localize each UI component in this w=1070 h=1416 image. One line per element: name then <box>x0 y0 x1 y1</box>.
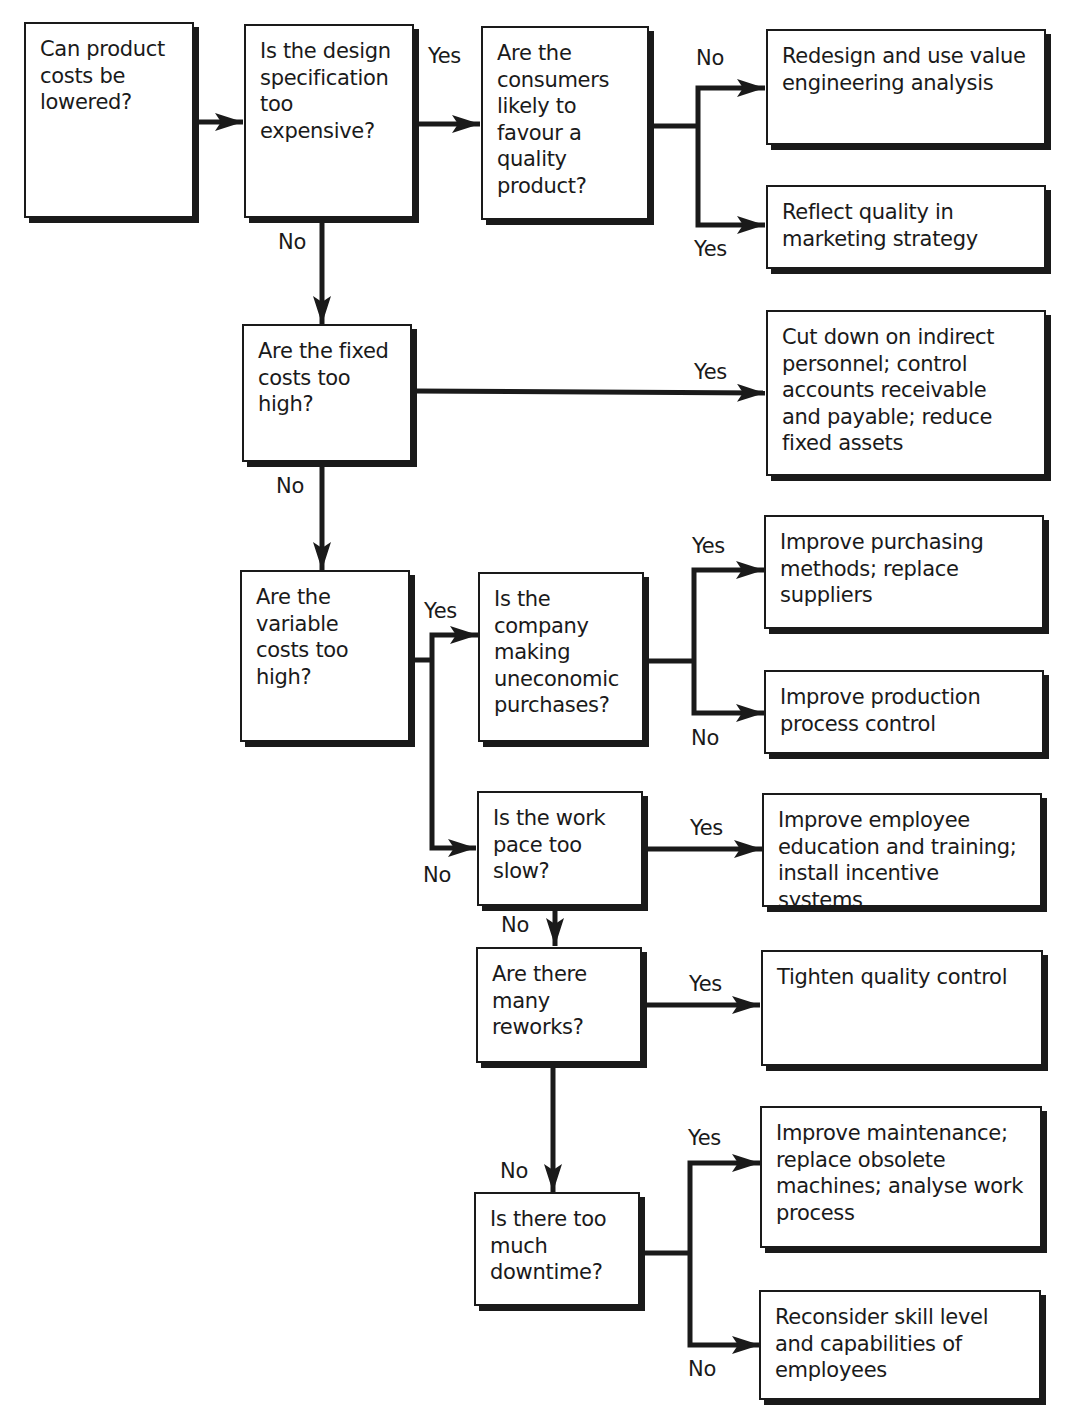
node-text: Are the fixed costs too high? <box>258 339 389 416</box>
label-variable-yes: Yes <box>424 599 457 623</box>
label-workpace-no: No <box>501 913 529 937</box>
node-text: Is there too much downtime? <box>490 1207 606 1284</box>
label-purchases-no: No <box>691 726 719 750</box>
node-text: Can product costs be lowered? <box>40 37 165 114</box>
node-text: Improve production process control <box>780 685 980 736</box>
label-downtime-no: No <box>688 1357 716 1381</box>
edge-consumers-to-reflect <box>698 126 765 225</box>
label-design-yes: Yes <box>428 44 461 68</box>
node-text: Is the company making uneconomic purchas… <box>494 587 619 717</box>
node-improve-production: Improve production process control <box>764 670 1044 754</box>
label-reworks-yes: Yes <box>689 972 722 996</box>
edge-downtime-to-maintenance <box>690 1163 760 1253</box>
node-improve-purchasing: Improve purchasing methods; replace supp… <box>764 515 1044 629</box>
edge-variable-to-workpace <box>432 660 476 848</box>
label-design-no: No <box>278 230 306 254</box>
label-fixed-yes: Yes <box>694 360 727 384</box>
node-text: Redesign and use value engineering analy… <box>782 44 1026 95</box>
label-purchases-yes: Yes <box>692 534 725 558</box>
node-text: Reflect quality in marketing strategy <box>782 200 978 251</box>
edge-consumers-to-redesign <box>698 88 765 126</box>
node-downtime: Is there too much downtime? <box>474 1192 640 1306</box>
node-costs-lowered: Can product costs be lowered? <box>24 22 194 218</box>
node-consumers-quality: Are the consumers likely to favour a qua… <box>481 26 649 220</box>
node-fixed-costs: Are the fixed costs too high? <box>242 324 412 462</box>
label-variable-no: No <box>423 863 451 887</box>
edge-purchases-to-improve-purchasing <box>694 570 764 661</box>
node-text: Tighten quality control <box>777 965 1007 989</box>
node-text: Is the design specification too expensiv… <box>260 39 391 143</box>
node-text: Are there many reworks? <box>492 962 587 1039</box>
label-fixed-no: No <box>276 474 304 498</box>
node-text: Is the work pace too slow? <box>493 806 605 883</box>
node-reworks: Are there many reworks? <box>476 947 642 1063</box>
node-improve-education: Improve employee education and training;… <box>762 793 1042 907</box>
node-tighten-quality: Tighten quality control <box>761 950 1043 1066</box>
label-downtime-yes: Yes <box>688 1126 721 1150</box>
node-redesign: Redesign and use value engineering analy… <box>766 29 1046 145</box>
edge-purchases-to-improve-production <box>694 661 764 713</box>
node-text: Cut down on indirect personnel; control … <box>782 325 994 455</box>
node-cut-down: Cut down on indirect personnel; control … <box>766 310 1046 476</box>
node-reflect-quality: Reflect quality in marketing strategy <box>766 185 1046 269</box>
node-text: Are the variable costs too high? <box>256 585 348 689</box>
node-text: Are the consumers likely to favour a qua… <box>497 41 609 198</box>
label-consumers-no: No <box>696 46 724 70</box>
node-reconsider-skill: Reconsider skill level and capabilities … <box>759 1290 1041 1400</box>
node-text: Improve purchasing methods; replace supp… <box>780 530 984 607</box>
node-work-pace: Is the work pace too slow? <box>477 791 643 906</box>
node-design-spec: Is the design specification too expensiv… <box>244 24 414 218</box>
node-improve-maintenance: Improve maintenance; replace obsolete ma… <box>760 1106 1042 1248</box>
label-consumers-yes: Yes <box>694 237 727 261</box>
node-variable-costs: Are the variable costs too high? <box>240 570 410 742</box>
label-reworks-no: No <box>500 1159 528 1183</box>
edge-variable-to-purchases <box>432 635 478 660</box>
node-text: Improve maintenance; replace obsolete ma… <box>776 1121 1023 1225</box>
label-workpace-yes: Yes <box>690 816 723 840</box>
edge-fixed-to-cutdown <box>414 391 765 393</box>
node-text: Reconsider skill level and capabilities … <box>775 1305 988 1382</box>
node-uneconomic-purchases: Is the company making uneconomic purchas… <box>478 572 644 742</box>
node-text: Improve employee education and training;… <box>778 808 1017 912</box>
edge-downtime-to-reconsider <box>690 1253 760 1345</box>
